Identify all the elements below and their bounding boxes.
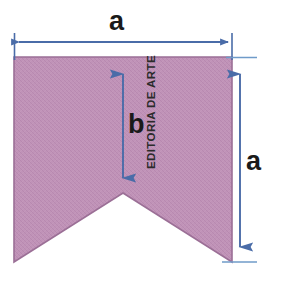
dimension-label-a-top: a bbox=[109, 8, 124, 35]
geometry-figure: a b a EDITORIA DE ARTE bbox=[0, 0, 303, 283]
dimension-label-a-right: a bbox=[246, 148, 261, 175]
credit-text: EDITORIA DE ARTE bbox=[143, 34, 159, 169]
